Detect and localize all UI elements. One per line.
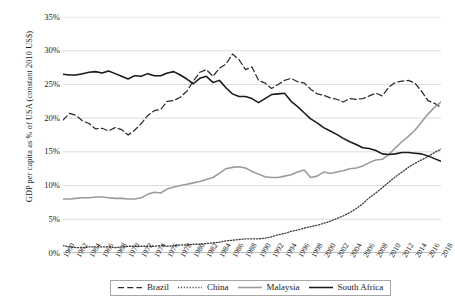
legend-label: China <box>207 283 229 292</box>
y-tick-20%: 20% <box>20 114 60 123</box>
legend-item-south-africa[interactable]: South Africa <box>309 283 384 292</box>
legend-item-malaysia[interactable]: Malaysia <box>238 283 300 292</box>
legend-item-brazil[interactable]: Brazil <box>118 283 169 292</box>
plot-svg <box>63 17 441 253</box>
plot-area <box>63 17 441 253</box>
series-line-malaysia <box>63 102 441 199</box>
y-tick-25%: 25% <box>20 80 60 89</box>
chart-legend: BrazilChinaMalaysiaSouth Africa <box>110 280 391 296</box>
y-axis-tick-labels: 0%5%10%15%20%25%30%35% <box>18 0 60 307</box>
y-tick-30%: 30% <box>20 46 60 55</box>
legend-swatch-china-icon <box>178 284 202 291</box>
y-tick-15%: 15% <box>20 147 60 156</box>
legend-label: Malaysia <box>267 283 300 292</box>
y-tick-35%: 35% <box>20 13 60 22</box>
legend-swatch-south-africa-icon <box>309 284 333 291</box>
y-tick-10%: 10% <box>20 181 60 190</box>
legend-label: Brazil <box>147 283 169 292</box>
y-tick-0%: 0% <box>20 249 60 258</box>
legend-item-china[interactable]: China <box>178 283 229 292</box>
legend-swatch-brazil-icon <box>118 284 142 291</box>
legend-swatch-malaysia-icon <box>238 284 262 291</box>
series-line-brazil <box>63 54 441 135</box>
y-tick-5%: 5% <box>20 215 60 224</box>
x-tick-2018: 2018 <box>440 242 454 259</box>
legend-label: South Africa <box>338 283 384 292</box>
